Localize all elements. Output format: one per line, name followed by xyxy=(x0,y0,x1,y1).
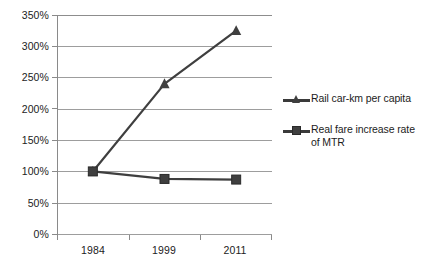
triangle-marker-icon xyxy=(283,93,310,107)
data-point-1-0 xyxy=(88,167,97,176)
square-marker-icon xyxy=(283,124,310,138)
data-point-1-1 xyxy=(160,174,169,183)
chart-legend: Rail car-km per capita Real fare increas… xyxy=(283,92,423,165)
legend-label-rail-car-km: Rail car-km per capita xyxy=(310,92,411,105)
data-point-0-1 xyxy=(159,78,169,88)
data-point-1-2 xyxy=(232,175,241,184)
series-line-0 xyxy=(93,31,236,172)
data-point-0-2 xyxy=(231,25,241,35)
legend-label-real-fare: Real fare increase rate of MTR xyxy=(310,123,423,149)
line-chart: 350% 300% 250% 200% 150% 100% 50% 0% 198… xyxy=(0,0,423,261)
legend-entry-rail-car-km: Rail car-km per capita xyxy=(283,92,423,107)
legend-entry-real-fare: Real fare increase rate of MTR xyxy=(283,123,423,149)
